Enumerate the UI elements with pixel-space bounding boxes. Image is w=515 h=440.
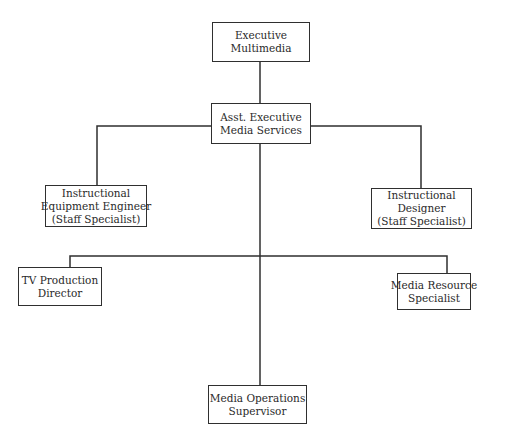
node-line: Designer: [377, 202, 466, 215]
node-line: Multimedia: [231, 42, 292, 55]
node-line: Asst. Executive: [220, 111, 302, 124]
node-executive-multimedia: Executive Multimedia: [212, 22, 310, 62]
node-line: Media Services: [220, 124, 302, 137]
node-media-resource-specialist: Media Resource Specialist: [397, 273, 471, 310]
node-instructional-designer: Instructional Designer (Staff Specialist…: [371, 188, 472, 229]
node-media-operations-supervisor: Media Operations Supervisor: [208, 385, 307, 424]
node-line: Director: [22, 287, 98, 300]
node-line: Specialist: [391, 292, 477, 305]
node-line: (Staff Specialist): [41, 213, 151, 226]
node-line: TV Production: [22, 274, 98, 287]
node-line: Instructional: [41, 187, 151, 200]
node-line: Executive: [231, 29, 292, 42]
node-line: (Staff Specialist): [377, 215, 466, 228]
node-line: Media Operations: [210, 392, 306, 405]
node-line: Equipment Engineer: [41, 200, 151, 213]
node-line: Media Resource: [391, 279, 477, 292]
node-tv-production-director: TV Production Director: [18, 267, 102, 306]
node-line: Instructional: [377, 189, 466, 202]
node-asst-executive-media-services: Asst. Executive Media Services: [211, 103, 311, 144]
node-instructional-equipment-engineer: Instructional Equipment Engineer (Staff …: [45, 185, 147, 227]
node-line: Supervisor: [210, 405, 306, 418]
